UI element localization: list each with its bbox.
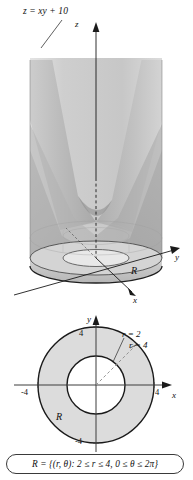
tick-label-x-negative: -4 <box>21 388 28 397</box>
figure-graphics <box>0 0 193 480</box>
inner-radius-label: r = 2 <box>122 330 141 339</box>
x-axis-arrowhead-2d <box>162 382 172 389</box>
plot2d-group <box>14 315 172 452</box>
y-axis-arrowhead-2d <box>93 315 100 325</box>
calculus-figure: z = xy + 10 z y x R y x R r = 2 r = 4 4 … <box>0 0 193 480</box>
set-notation-box: R = {(r, θ): 2 ≤ r ≤ 4, 0 ≤ θ ≤ 2π} <box>6 454 184 474</box>
y-axis-label-2d: y <box>87 315 91 324</box>
tick-label-y-positive: 4 <box>79 329 83 338</box>
y-axis-label-3d: y <box>175 253 179 262</box>
surface-equation-label: z = xy + 10 <box>23 7 68 17</box>
z-axis-label-3d: z <box>75 20 79 29</box>
plot3d-group <box>14 20 180 296</box>
region-label-2d: R <box>56 412 62 422</box>
outer-radius-label: r = 4 <box>129 341 148 350</box>
x-axis-label-3d: x <box>133 296 137 305</box>
set-notation-text: R = {(r, θ): 2 ≤ r ≤ 4, 0 ≤ θ ≤ 2π} <box>32 459 158 469</box>
equation-leader-line <box>41 20 62 48</box>
z-axis-arrowhead <box>93 22 100 32</box>
tick-label-x-positive: 4 <box>155 388 159 397</box>
region-label-3d: R <box>131 266 137 276</box>
x-axis-label-2d: x <box>172 391 176 400</box>
tick-label-y-negative: -4 <box>75 437 82 446</box>
